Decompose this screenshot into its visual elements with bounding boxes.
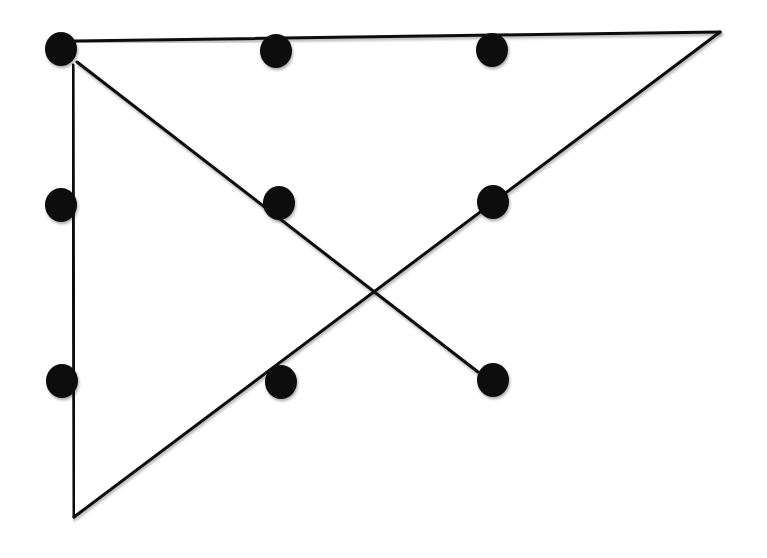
dot-r2c3 — [477, 185, 509, 219]
dot-r3c2 — [265, 365, 297, 399]
left-vertical — [73, 65, 74, 517]
dot-r1c1 — [45, 32, 77, 66]
dot-r1c3 — [476, 33, 508, 67]
dot-r2c2 — [263, 186, 295, 220]
dot-r1c2 — [260, 34, 292, 68]
nine-dots-diagram — [0, 0, 767, 558]
right-diagonal — [74, 32, 720, 517]
dot-r2c1 — [45, 188, 77, 222]
dot-r3c3 — [477, 363, 509, 397]
top-line — [75, 32, 720, 41]
dot-r3c1 — [46, 364, 78, 398]
solution-lines — [73, 32, 720, 517]
